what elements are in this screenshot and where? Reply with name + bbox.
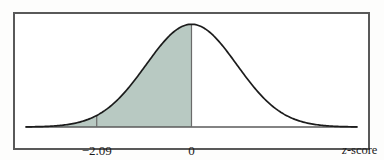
x-axis-tick-label-negative-2-09: −2.09 — [73, 144, 121, 157]
x-axis-title-suffix: -score — [347, 143, 378, 157]
figure-container: −2.09 0 z-score — [0, 0, 384, 160]
normal-distribution-plot — [15, 14, 368, 148]
x-axis-tick-label-zero: 0 — [176, 144, 208, 157]
x-axis-title: z-score — [342, 144, 377, 157]
figure-border-frame: −2.09 0 z-score — [13, 12, 370, 150]
